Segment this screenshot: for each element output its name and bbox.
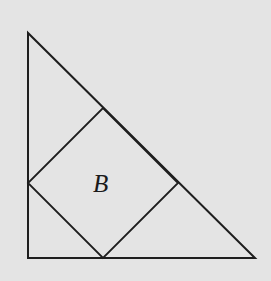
square-label-b: B bbox=[93, 171, 108, 196]
diagram-canvas bbox=[0, 0, 271, 281]
